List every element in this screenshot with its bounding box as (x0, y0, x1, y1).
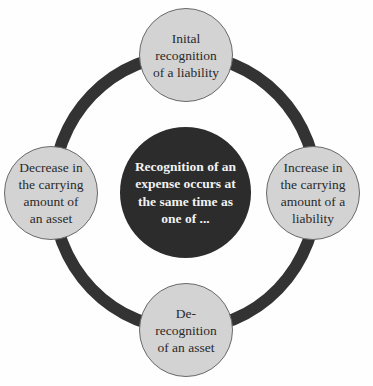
center-label: Recognition of an expense occurs at the … (130, 158, 241, 228)
node-label: De- recognition of an asset (155, 305, 216, 356)
node-label-line: Decrease in (19, 159, 84, 176)
node-label-line: amount of a (281, 193, 346, 210)
node-label-line: Inital (153, 30, 219, 47)
node-decrease-carrying-amount-asset: Decrease in the carrying amount of an as… (4, 146, 98, 240)
node-label-line: the carrying (19, 176, 84, 193)
node-derecognition-of-asset: De- recognition of an asset (139, 283, 233, 377)
node-label: Inital recognition of a liability (153, 30, 219, 81)
node-label-line: Increase in (281, 159, 346, 176)
center-hub-recognition-of-expense: Recognition of an expense occurs at the … (120, 127, 251, 258)
node-initial-recognition-of-liability: Inital recognition of a liability (139, 8, 233, 102)
node-increase-carrying-amount-liability: Increase in the carrying amount of a lia… (266, 146, 360, 240)
node-label-line: liability (281, 210, 346, 227)
expense-recognition-diagram: Inital recognition of a liability Decrea… (0, 0, 373, 386)
node-label-line: recognition (153, 47, 219, 64)
node-label-line: amount of (19, 193, 84, 210)
node-label-line: the carrying (281, 176, 346, 193)
node-label: Increase in the carrying amount of a lia… (281, 159, 346, 227)
node-label-line: of an asset (155, 339, 216, 356)
node-label-line: of a liability (153, 64, 219, 81)
node-label-line: De- (155, 305, 216, 322)
node-label-line: an asset (19, 210, 84, 227)
node-label: Decrease in the carrying amount of an as… (19, 159, 84, 227)
node-label-line: recognition (155, 322, 216, 339)
